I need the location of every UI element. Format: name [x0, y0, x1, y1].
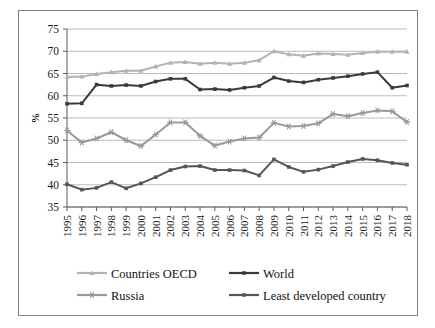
y-tick-label: 55 [48, 112, 60, 124]
data-point-marker [139, 182, 143, 186]
x-tick-label: 2009 [268, 215, 280, 238]
data-point-marker [139, 84, 143, 88]
data-point-marker [243, 169, 247, 173]
x-tick-label: 2006 [224, 215, 236, 238]
x-tick-label: 1999 [120, 215, 132, 238]
x-tick-label: 2003 [179, 215, 191, 238]
data-point-marker [257, 174, 261, 178]
data-point-marker [317, 168, 321, 172]
data-point-marker [405, 163, 409, 167]
x-tick-label: 1996 [76, 215, 88, 238]
series-line [67, 72, 407, 104]
data-point-marker [65, 102, 69, 106]
x-tick-label: 2011 [298, 215, 310, 237]
data-point-marker [317, 78, 321, 82]
x-tick-label: 2018 [401, 215, 413, 238]
y-tick-label: 70 [48, 45, 60, 57]
data-point-marker [213, 168, 217, 172]
legend-label: Countries OECD [111, 267, 197, 281]
legend-item-least-developed-country[interactable]: Least developed country [229, 289, 387, 303]
line-chart-svg: 354045505560657075%199519961997199819992… [19, 11, 419, 317]
x-tick-label: 2000 [135, 215, 147, 238]
data-point-marker [124, 83, 128, 87]
data-point-marker [331, 76, 335, 80]
y-tick-label: 75 [48, 23, 60, 35]
y-tick-label: 60 [48, 90, 60, 102]
data-point-marker [110, 84, 114, 88]
data-point-marker [169, 168, 173, 172]
data-point-marker [154, 80, 158, 84]
data-point-marker [287, 165, 291, 169]
data-point-marker [124, 187, 128, 191]
data-point-marker [80, 188, 84, 192]
y-tick-label: 50 [48, 134, 60, 146]
data-point-marker [242, 271, 246, 275]
data-point-marker [198, 164, 202, 168]
data-point-marker [302, 170, 306, 174]
data-point-marker [376, 158, 380, 162]
x-tick-label: 2007 [238, 215, 250, 238]
legend-item-world[interactable]: World [229, 267, 295, 281]
y-tick-label: 65 [48, 68, 60, 80]
x-tick-label: 2013 [327, 215, 339, 238]
data-point-marker [331, 164, 335, 168]
data-point-marker [376, 70, 380, 74]
x-tick-label: 2012 [312, 215, 324, 237]
data-point-marker [272, 76, 276, 80]
data-point-marker [390, 86, 394, 90]
data-point-marker [361, 157, 365, 161]
data-point-marker [243, 86, 247, 90]
series-world [65, 70, 409, 105]
chart-legend: Countries OECDWorldRussiaLeast developed… [77, 267, 387, 303]
data-point-marker [65, 183, 69, 187]
x-tick-labels: 1995199619971998199920002001200220032004… [61, 207, 413, 237]
y-gridlines: 354045505560657075 [48, 23, 408, 213]
plot-area: 354045505560657075%199519961997199819992… [19, 11, 419, 317]
data-point-marker [95, 83, 99, 87]
data-point-marker [242, 293, 246, 297]
x-tick-label: 2001 [150, 215, 162, 237]
data-point-marker [272, 158, 276, 162]
data-point-marker [346, 74, 350, 78]
x-tick-label: 2002 [164, 215, 176, 237]
data-point-marker [154, 175, 158, 179]
data-point-marker [361, 72, 365, 76]
data-point-marker [228, 88, 232, 92]
x-tick-label: 2017 [386, 215, 398, 238]
x-tick-label: 2004 [194, 215, 206, 238]
x-tick-label: 2010 [283, 215, 295, 238]
data-point-marker [287, 79, 291, 83]
data-point-marker [390, 161, 394, 165]
data-point-marker [198, 88, 202, 92]
y-tick-label: 45 [48, 157, 60, 169]
data-point-marker [95, 186, 99, 190]
legend-item-russia[interactable]: Russia [77, 289, 145, 303]
x-tick-label: 2016 [371, 215, 383, 238]
y-axis-title: % [30, 113, 41, 124]
x-tick-label: 2014 [342, 215, 354, 238]
legend-label: Least developed country [263, 289, 387, 303]
chart-container: 354045505560657075%199519961997199819992… [18, 10, 418, 316]
x-tick-label: 1998 [105, 215, 117, 238]
data-point-marker [213, 87, 217, 91]
legend-label: Russia [111, 289, 145, 303]
legend-item-countries-oecd[interactable]: Countries OECD [77, 267, 197, 281]
data-point-marker [302, 81, 306, 85]
data-point-marker [257, 84, 261, 88]
y-tick-label: 35 [48, 201, 60, 213]
data-point-marker [405, 84, 409, 88]
data-point-marker [346, 160, 350, 164]
data-point-marker [228, 168, 232, 172]
data-point-marker [110, 180, 114, 184]
y-tick-label: 40 [48, 179, 60, 191]
x-tick-label: 1997 [91, 215, 103, 238]
data-point-marker [183, 77, 187, 81]
data-point-marker [80, 102, 84, 106]
legend-label: World [263, 267, 295, 281]
data-point-marker [183, 165, 187, 169]
data-point-marker [169, 77, 173, 81]
x-tick-label: 1995 [61, 215, 73, 238]
x-tick-label: 2008 [253, 215, 265, 238]
series-russia [64, 108, 410, 149]
series-line [67, 110, 407, 146]
